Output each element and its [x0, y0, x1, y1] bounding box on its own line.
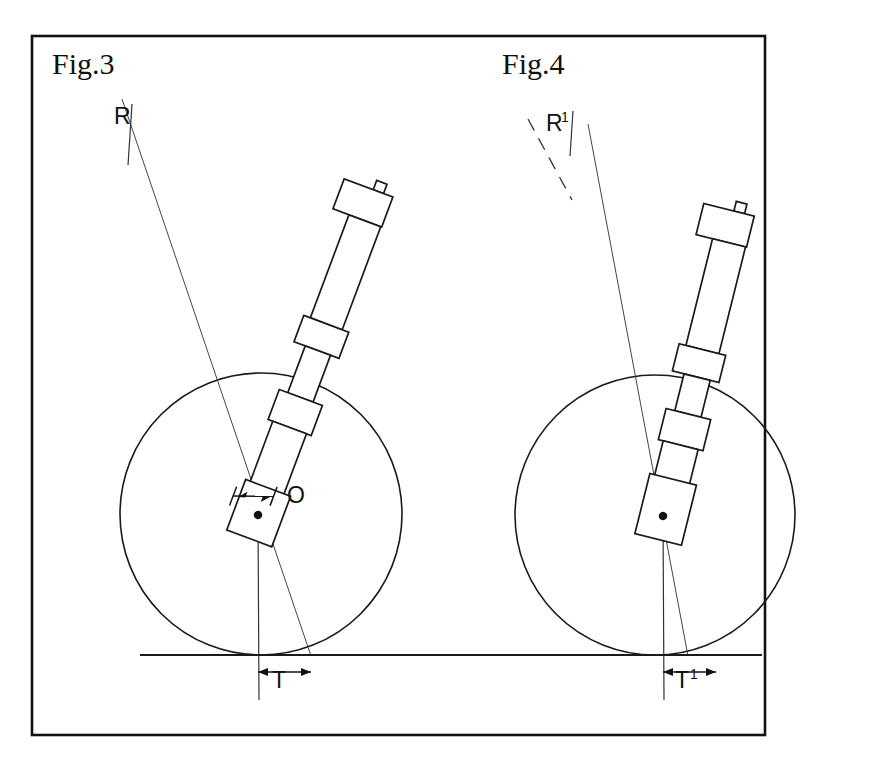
- plate-border: [32, 36, 765, 735]
- figure-fig4: Fig.4: [502, 47, 795, 700]
- rake-angle-label-fig3: R: [114, 103, 131, 129]
- trail-arrow-right-fig3: [301, 668, 311, 676]
- vertical-reference-line-fig4: [570, 111, 573, 156]
- slider-tube-fig3: [288, 346, 331, 402]
- rake-angle-label-superscript-fig4: 1: [561, 109, 569, 125]
- upper-tube-fig3: [310, 215, 380, 330]
- strut-assembly-fig3: [215, 170, 405, 547]
- trail-label-fig4: T: [675, 667, 689, 693]
- trail-label-fig3: T: [272, 667, 286, 693]
- steering-axis-line-fig3: [122, 99, 311, 656]
- slider-tube-fig4: [675, 374, 710, 417]
- trail-dimension-fig4: T 1: [663, 666, 716, 693]
- technical-drawing-canvas: Fig.3: [0, 0, 886, 766]
- figure-label-fig4: Fig.4: [502, 47, 565, 80]
- figure-label-fig3: Fig.3: [52, 47, 115, 80]
- trail-arrow-left-fig3: [258, 668, 268, 676]
- drawing-plate: Fig.3: [0, 0, 886, 766]
- trail-dimension-fig3: T: [258, 667, 311, 693]
- upper-tube-fig4: [686, 239, 746, 354]
- centre-point-label-fig3: O: [287, 482, 305, 508]
- trail-arrow-left-fig4: [663, 668, 673, 676]
- steering-axis-line-fig4: [588, 124, 688, 656]
- trail-label-superscript-fig4: 1: [690, 666, 698, 682]
- figure-fig3: Fig.3: [52, 47, 405, 700]
- trail-arrow-right-fig4: [706, 668, 716, 676]
- hub-box-fig4: [635, 474, 697, 546]
- strut-assembly-fig4: [622, 194, 765, 545]
